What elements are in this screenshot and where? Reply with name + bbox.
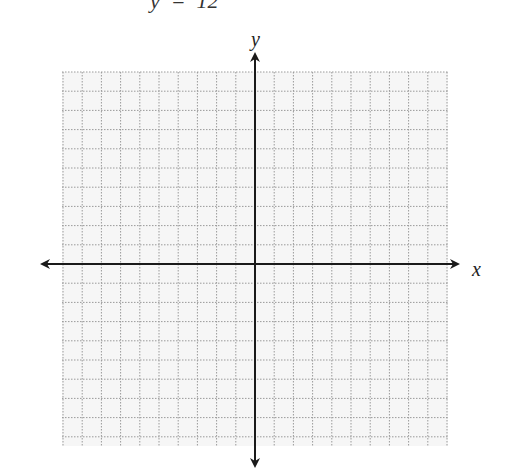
- x-axis-label: x: [471, 258, 481, 280]
- y-axis-label: y: [249, 28, 260, 51]
- coordinate-plane: x y: [0, 0, 509, 472]
